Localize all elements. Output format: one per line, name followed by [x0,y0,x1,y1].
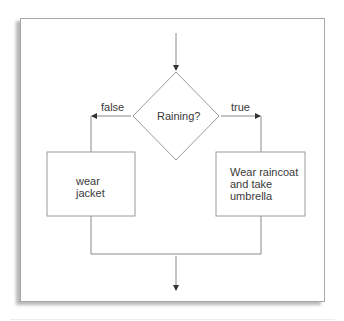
bottom-divider [10,319,335,320]
decision-label: Raining? [157,110,200,122]
false-action-line-2: jacket [76,187,105,199]
false-action-line-1: wear [76,175,100,187]
true-action-line-3: umbrella [230,190,272,202]
true-edge-label: true [231,101,250,113]
true-action-line-2: and take [230,178,272,190]
true-action-line-1: Wear raincoat [230,166,298,178]
false-edge-label: false [101,101,124,113]
flowchart-canvas [0,0,344,321]
